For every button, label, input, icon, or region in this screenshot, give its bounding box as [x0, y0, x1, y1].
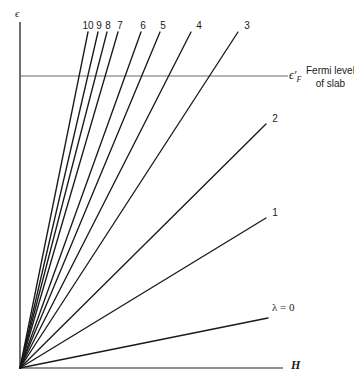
branch-line-10	[20, 32, 88, 368]
branch-label-4: 4	[191, 20, 207, 32]
figure-container: ϵ 10 9 8 7 6 5 4 3 2 1 λ = 0 ϵ′F Fermi l…	[0, 0, 354, 388]
branch-label-1: 1	[267, 207, 283, 219]
branch-label-5: 5	[155, 20, 171, 32]
branch-line-5	[20, 32, 160, 368]
fermi-level-symbol: ϵ′F	[289, 69, 301, 85]
fermi-caption-line-1: Fermi level	[306, 65, 354, 78]
branch-label-7: 7	[112, 20, 128, 32]
branch-line-4	[20, 32, 191, 368]
branch-label-6: 6	[135, 20, 151, 32]
fermi-caption-line-2: of slab	[306, 78, 354, 91]
fermi-subscript-glyph: F	[296, 75, 301, 84]
branch-line-0	[20, 318, 268, 368]
x-axis-label: H	[291, 359, 300, 373]
axes-group	[20, 22, 283, 368]
y-axis-label: ϵ	[15, 7, 19, 20]
branch-label-2: 2	[267, 113, 283, 125]
branch-line-9	[20, 32, 98, 368]
lambda-zero-label: λ = 0	[272, 301, 295, 314]
branch-line-6	[20, 32, 141, 368]
branch-line-3	[20, 32, 238, 368]
branch-line-8	[20, 32, 107, 368]
fermi-level-caption: Fermi level of slab	[306, 65, 354, 90]
landau-fan-lines	[20, 32, 268, 368]
branch-line-2	[20, 124, 266, 368]
plot-canvas	[0, 0, 354, 388]
branch-label-3: 3	[239, 20, 255, 32]
